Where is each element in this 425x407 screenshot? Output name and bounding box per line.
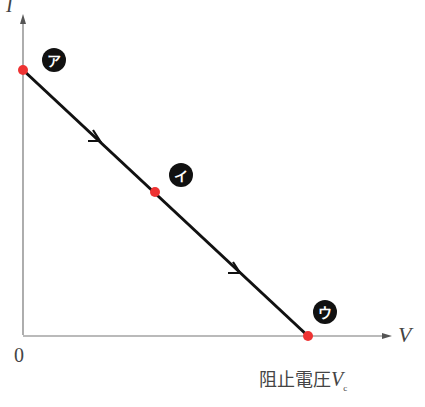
x-axis-label: V xyxy=(398,322,411,348)
badge-u-label: ウ xyxy=(313,302,337,322)
badge-a-label: ア xyxy=(42,50,66,70)
iv-line xyxy=(23,70,308,336)
stopping-voltage-text: 阻止電圧 xyxy=(259,370,331,390)
badge-i-label: イ xyxy=(169,165,193,185)
stopping-voltage-label: 阻止電圧Vc xyxy=(259,365,347,393)
point-i xyxy=(150,187,160,197)
point-a xyxy=(18,65,28,75)
y-axis-label: I xyxy=(6,0,13,17)
vc-sub: c xyxy=(343,383,347,393)
vc-var: V xyxy=(331,368,343,390)
y-axis-arrow-icon xyxy=(20,14,26,24)
origin-label: 0 xyxy=(14,344,24,367)
x-axis-arrow-icon xyxy=(382,333,392,339)
point-u xyxy=(303,331,313,341)
